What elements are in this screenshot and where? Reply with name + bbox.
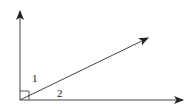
angle-diagram: 1 2 <box>0 0 189 109</box>
angle-2-label: 2 <box>57 87 63 99</box>
angle-1-label: 1 <box>32 72 38 84</box>
right-angle-marker <box>20 91 29 100</box>
diagonal-ray <box>20 38 148 100</box>
